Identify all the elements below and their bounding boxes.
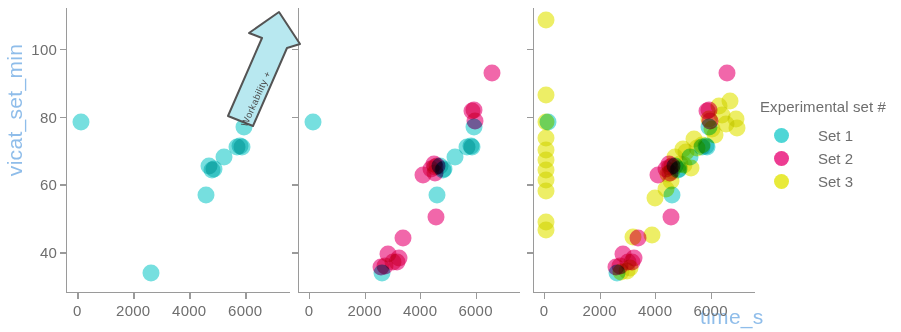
plot-area: 4060801000200040006000 [66,8,290,293]
data-point [624,229,641,246]
data-point [391,249,408,266]
x-axis-tick [245,293,246,299]
data-point [198,186,215,203]
data-point [427,208,444,225]
data-point [728,120,745,137]
data-point [483,65,500,82]
x-axis-tick [189,293,190,299]
y-axis-tick [292,117,298,118]
data-point [537,86,554,103]
legend-swatch-icon [774,174,789,189]
data-point [235,118,252,135]
y-axis-line [533,8,534,293]
x-axis-tick [600,293,601,299]
legend-item-label: Set 3 [818,173,853,190]
y-axis-tick-label: 100 [31,40,57,57]
x-axis-tick [711,293,712,299]
legend-item-label: Set 2 [818,150,853,167]
y-axis-tick [527,184,533,185]
x-axis-tick [365,293,366,299]
data-point [537,221,554,238]
x-axis-tick-label: 0 [305,302,314,319]
scatter-figure: vicat_set_min time_s 4060801000200040006… [0,0,901,332]
data-point [722,92,739,109]
legend-entries: Set 1Set 2Set 3 [760,124,886,193]
x-axis-tick [77,293,78,299]
y-axis-tick [292,184,298,185]
legend-item-set-1[interactable]: Set 1 [760,124,886,147]
legend-item-label: Set 1 [818,127,853,144]
y-axis-tick [292,49,298,50]
x-axis-tick-label: 2000 [116,302,150,319]
x-axis-tick [544,293,545,299]
y-axis-line [298,8,299,293]
x-axis-tick-label: 4000 [638,302,672,319]
legend-title: Experimental set # [760,98,886,115]
x-axis-tick-label: 2000 [348,302,382,319]
data-point [233,139,250,156]
y-axis-tick [527,252,533,253]
x-axis-tick-label: 2000 [583,302,617,319]
legend-swatch-icon [774,151,789,166]
x-axis-tick [476,293,477,299]
data-point [73,113,90,130]
x-axis-line [533,292,755,293]
x-axis-tick-label: 6000 [459,302,493,319]
legend-item-set-2[interactable]: Set 2 [760,147,886,170]
x-axis-tick [420,293,421,299]
data-point [718,65,735,82]
y-axis-tick-label: 40 [40,244,57,261]
x-axis-tick-label: 4000 [403,302,437,319]
data-point [143,264,160,281]
y-axis-tick-label: 80 [40,108,57,125]
data-point [537,114,554,131]
x-axis-line [298,292,520,293]
y-axis-tick [527,49,533,50]
plot-area: 0200040006000 [298,8,520,293]
data-point [683,160,700,177]
legend-swatch-icon [774,128,789,143]
y-axis-tick-label: 60 [40,176,57,193]
x-axis-tick-label: 6000 [228,302,262,319]
y-axis-tick [292,252,298,253]
data-point [644,227,661,244]
data-point [394,230,411,247]
data-point [662,208,679,225]
data-point [464,139,481,156]
x-axis-tick-label: 0 [73,302,82,319]
y-axis-tick [60,252,66,253]
legend: Experimental set # Set 1Set 2Set 3 [760,98,886,193]
scatter-panel-1: 4060801000200040006000 [66,8,290,293]
x-axis-line [66,292,290,293]
y-axis-tick [60,117,66,118]
y-axis-title: vicat_set_min [2,10,28,210]
x-axis-tick [133,293,134,299]
x-axis-tick-label: 0 [540,302,549,319]
y-axis-tick [527,117,533,118]
y-axis-tick [60,49,66,50]
y-axis-tick [60,184,66,185]
data-point [537,183,554,200]
y-axis-title-text: vicat_set_min [3,44,27,176]
x-axis-tick [309,293,310,299]
plot-area: 0200040006000 [533,8,755,293]
data-point [429,158,446,175]
x-axis-tick-label: 6000 [694,302,728,319]
data-point [429,186,446,203]
data-point [467,113,484,130]
data-point [621,259,638,276]
scatter-panel-2: 0200040006000 [298,8,520,293]
x-axis-tick-label: 4000 [172,302,206,319]
data-point [537,11,554,28]
legend-item-set-3[interactable]: Set 3 [760,170,886,193]
data-point [305,113,322,130]
y-axis-line [66,8,67,293]
scatter-panel-3: 0200040006000 [533,8,755,293]
x-axis-tick [655,293,656,299]
